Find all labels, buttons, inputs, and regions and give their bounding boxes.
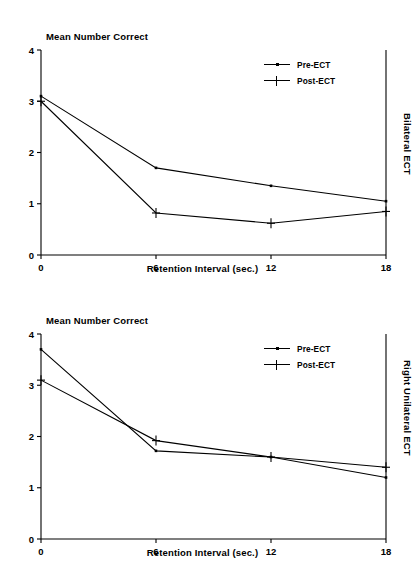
x-axis-label: Retention Interval (sec.) [0,263,419,274]
data-point-dot-marker [155,167,158,170]
legend-label-pre-ect: Pre-ECT [297,344,330,354]
y-tick-label: 1 [29,482,35,493]
legend-right-unilateral: Pre-ECT Post-ECT [264,341,335,373]
data-point-plus-marker [37,375,45,385]
y-tick-label: 0 [29,250,34,261]
data-point-plus-marker [382,206,390,216]
series-line-pre-ect [41,96,386,201]
y-tick-label: 3 [29,380,34,391]
plus-marker-icon [264,359,290,371]
chart-panel-bilateral: Mean Number Correct 01234061218 Pre-ECT … [0,0,419,283]
data-point-dot-marker [270,185,273,188]
legend-label-post-ect: Post-ECT [297,76,335,86]
data-point-plus-marker [267,218,275,228]
legend-item-post-ect: Post-ECT [264,73,335,89]
legend-item-pre-ect: Pre-ECT [264,341,335,357]
data-point-dot-marker [155,450,158,453]
series-line-post-ect [41,101,386,223]
y-tick-label: 2 [29,431,34,442]
data-point-dot-marker [40,348,43,351]
y-tick-label: 4 [29,329,35,340]
data-point-plus-marker [382,462,390,472]
panel-side-label: Right Unilateral ECT [396,284,418,544]
line-dot-marker-icon [264,59,290,71]
y-tick-label: 2 [29,147,34,158]
y-tick-label: 4 [29,45,35,56]
y-tick-label: 0 [29,534,34,545]
y-tick-label: 3 [29,96,34,107]
data-point-plus-marker [152,436,160,446]
data-point-dot-marker [385,476,388,479]
data-point-dot-marker [385,200,388,203]
legend-label-pre-ect: Pre-ECT [297,60,330,70]
y-tick-label: 1 [29,198,35,209]
plot-area-bilateral: 01234061218 [0,0,419,283]
legend-bilateral: Pre-ECT Post-ECT [264,57,335,89]
legend-item-post-ect: Post-ECT [264,357,335,373]
data-point-plus-marker [152,208,160,218]
x-axis-label: Retention Interval (sec.) [0,547,419,558]
plus-marker-icon [264,75,290,87]
panel-side-label: Bilateral ECT [396,0,418,260]
data-point-plus-marker [267,452,275,462]
plot-area-right-unilateral: 01234061218 [0,284,419,567]
legend-label-post-ect: Post-ECT [297,360,335,370]
chart-panel-right-unilateral: Mean Number Correct 01234061218 Pre-ECT … [0,284,419,567]
line-dot-marker-icon [264,343,290,355]
two-panel-line-chart-figure: Mean Number Correct 01234061218 Pre-ECT … [0,0,419,567]
legend-item-pre-ect: Pre-ECT [264,57,335,73]
